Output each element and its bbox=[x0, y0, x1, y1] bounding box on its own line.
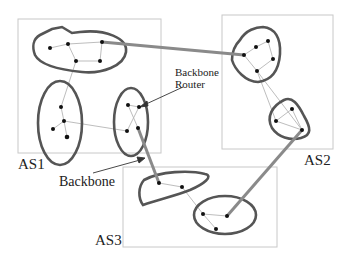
backbone-router-label-line2: Router bbox=[175, 78, 219, 90]
as2-label: AS2 bbox=[304, 153, 331, 168]
as3-label: AS3 bbox=[95, 233, 122, 248]
backbone-arrowhead bbox=[137, 157, 145, 163]
as1-label: AS1 bbox=[18, 157, 45, 172]
as1-area-top bbox=[33, 27, 126, 72]
backbone-router-label: Backbone Router bbox=[175, 66, 219, 90]
backbone-label: Backbone bbox=[59, 175, 115, 189]
diagram-canvas bbox=[0, 0, 350, 258]
as-diagram: AS1 AS2 AS3 Backbone Backbone Router bbox=[0, 0, 350, 258]
backbone-as1-as2 bbox=[102, 42, 244, 55]
backbone-router-label-line1: Backbone bbox=[175, 66, 219, 78]
